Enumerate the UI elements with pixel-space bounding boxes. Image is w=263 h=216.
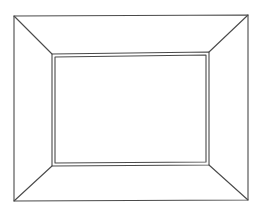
frame-inner-border xyxy=(52,52,209,166)
frame-outer-border xyxy=(14,15,248,201)
corner-miter-top-left xyxy=(14,16,52,54)
picture-frame-drawing xyxy=(0,0,263,216)
corner-miter-top-right xyxy=(209,15,248,52)
corner-miter-bottom-left xyxy=(14,166,52,201)
corner-miter-bottom-right xyxy=(209,165,248,200)
frame-inner-border-double xyxy=(55,55,206,163)
